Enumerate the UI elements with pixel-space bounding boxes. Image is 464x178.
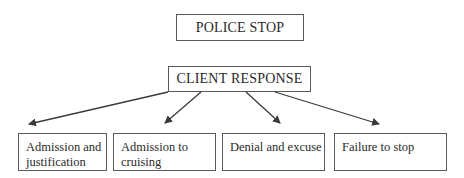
arrow-to-admission-justification [29, 92, 168, 124]
failure-stop-node: Failure to stop [334, 133, 447, 171]
denial-excuse-label: Denial and excuse [230, 140, 322, 154]
admission-justification-label: Admission and justification [26, 140, 101, 169]
denial-excuse-node: Denial and excuse [222, 133, 325, 171]
arrow-to-failure-stop [275, 92, 379, 124]
admission-cruising-label: Admission to cruising [121, 140, 188, 169]
admission-cruising-node: Admission to cruising [113, 133, 216, 171]
arrow-to-denial-excuse [246, 92, 280, 123]
arrow-to-admission-cruising [165, 92, 201, 123]
failure-stop-label: Failure to stop [342, 140, 414, 154]
admission-justification-node: Admission and justification [18, 133, 107, 171]
